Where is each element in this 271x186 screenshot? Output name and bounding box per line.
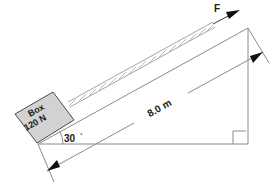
right-angle-marker bbox=[233, 131, 246, 144]
rope bbox=[68, 22, 215, 107]
inclined-plane-diagram: 8.0 m bbox=[0, 0, 271, 186]
incline-triangle bbox=[38, 28, 248, 144]
dimension-extension-left bbox=[38, 144, 54, 182]
force-arrow-group: F bbox=[213, 3, 240, 24]
angle-degree-symbol: ° bbox=[80, 132, 83, 138]
rope-edge-lower bbox=[70, 27, 215, 107]
dimension-line-group: 8.0 m bbox=[38, 28, 269, 182]
angle-arc bbox=[60, 131, 63, 144]
dimension-line-lower bbox=[47, 123, 134, 171]
rope-hatching bbox=[69, 25, 213, 106]
force-arrow-icon bbox=[226, 10, 240, 19]
dimension-arrow-left-icon bbox=[47, 160, 60, 171]
dimension-arrow-right-icon bbox=[250, 52, 263, 63]
physics-figure: 8.0 m bbox=[0, 0, 271, 186]
angle-value-label: 30 bbox=[64, 133, 76, 144]
rope-edge-upper bbox=[68, 22, 213, 102]
angle-label-group: 30 ° bbox=[64, 132, 83, 144]
incline-length-label: 8.0 m bbox=[145, 97, 173, 119]
force-label: F bbox=[214, 3, 220, 14]
incline-surface-line bbox=[38, 28, 248, 144]
